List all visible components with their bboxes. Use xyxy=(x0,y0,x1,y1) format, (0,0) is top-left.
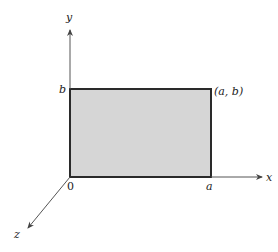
coordinate-diagram: y x z b 0 a (a, b) xyxy=(0,0,278,252)
a-label: a xyxy=(206,180,213,193)
z-axis xyxy=(28,177,70,228)
z-axis-label: z xyxy=(13,228,20,241)
shaded-rectangle-region xyxy=(70,89,211,177)
corner-point-label: (a, b) xyxy=(214,85,243,98)
x-axis-label: x xyxy=(266,171,273,184)
b-label: b xyxy=(59,83,66,96)
y-axis-label: y xyxy=(65,11,73,24)
origin-label: 0 xyxy=(67,180,74,193)
